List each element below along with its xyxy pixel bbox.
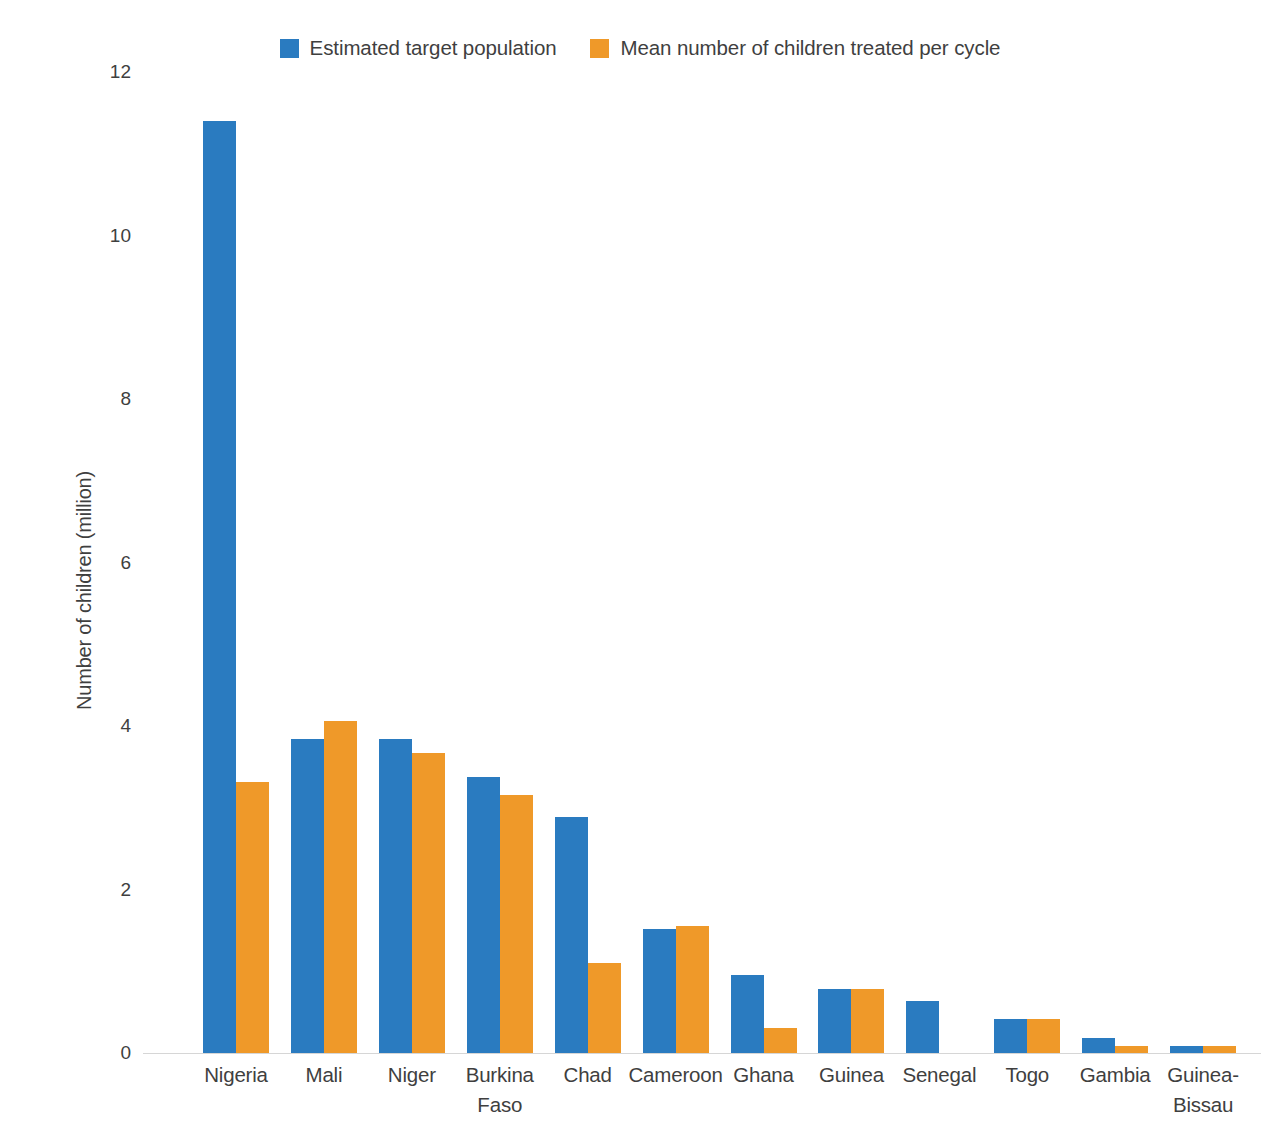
bar-series-container [143, 72, 1261, 1053]
y-axis-tick-12: 12 [85, 61, 131, 83]
bar-group [467, 72, 533, 1053]
bar [764, 1028, 797, 1053]
bar-group [291, 72, 357, 1053]
bar-group [1170, 72, 1236, 1053]
legend-label-mean-children-treated: Mean number of children treated per cycl… [620, 36, 1000, 60]
bar-group [731, 72, 797, 1053]
bar-group [906, 72, 972, 1053]
bar-group [994, 72, 1060, 1053]
y-axis-tick-0: 0 [85, 1042, 131, 1064]
x-axis-tick-labels: NigeriaMaliNigerBurkina FasoChadCameroon… [143, 1060, 1261, 1146]
bar [324, 721, 357, 1053]
bar-group [555, 72, 621, 1053]
bar-group [643, 72, 709, 1053]
bar [731, 975, 764, 1053]
bar [851, 989, 884, 1053]
axis-baseline [143, 1053, 1261, 1054]
legend-item-mean-children-treated: Mean number of children treated per cycl… [590, 36, 1000, 60]
legend-swatch-blue-icon [280, 39, 299, 58]
bar [1115, 1046, 1148, 1053]
bar [291, 739, 324, 1053]
bar [412, 753, 445, 1053]
bar-group [818, 72, 884, 1053]
y-axis-tick-4: 4 [85, 715, 131, 737]
bar [1027, 1019, 1060, 1053]
bar [994, 1019, 1027, 1053]
bar-group [379, 72, 445, 1053]
bar [676, 926, 709, 1053]
y-axis-title-text: Number of children (million) [73, 471, 96, 710]
plot-area: 121086420 [143, 72, 1261, 1053]
y-axis-tick-8: 8 [85, 388, 131, 410]
y-axis-tick-10: 10 [85, 225, 131, 247]
y-axis-title: Number of children (million) [56, 0, 112, 1147]
bar [555, 817, 588, 1053]
legend-swatch-orange-icon [590, 39, 609, 58]
bar [500, 795, 533, 1053]
legend-item-estimated-target-population: Estimated target population [280, 36, 557, 60]
bar [467, 777, 500, 1053]
bar [588, 963, 621, 1053]
bar [1203, 1046, 1236, 1053]
bar [203, 121, 236, 1053]
bar-chart: Estimated target population Mean number … [0, 0, 1280, 1147]
bar [379, 739, 412, 1053]
y-axis-tick-6: 6 [85, 552, 131, 574]
bar [906, 1001, 939, 1053]
legend-label-estimated-target-population: Estimated target population [310, 36, 557, 60]
x-axis-label: Guinea- Bissau [1123, 1060, 1280, 1120]
bar-group [203, 72, 269, 1053]
bar [1082, 1038, 1115, 1053]
bar-group [1082, 72, 1148, 1053]
bar [236, 782, 269, 1053]
y-axis-tick-2: 2 [85, 879, 131, 901]
bar [643, 929, 676, 1053]
bar [1170, 1046, 1203, 1053]
chart-legend: Estimated target population Mean number … [0, 36, 1280, 60]
bar [818, 989, 851, 1053]
